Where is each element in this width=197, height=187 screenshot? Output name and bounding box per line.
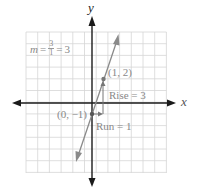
slope-value: 3 [64,43,70,55]
point-top-label: (1, 2) [108,66,132,78]
slope-annotation: m = 3 1 = 3 [30,40,70,57]
line-up-arrow-icon [113,34,120,46]
slope-fraction: 3 1 [48,40,54,57]
rise-label: Rise = 3 [109,89,146,101]
x-axis [12,100,176,107]
run-arrow-icon [98,112,103,117]
rise-arrow-icon [101,81,106,86]
coordinate-graph [0,0,197,187]
y-axis-down-arrow-icon [89,178,96,187]
y-axis-label: y [88,0,94,16]
slope-denominator: 1 [49,49,53,57]
x-axis-left-arrow-icon [12,100,21,107]
x-axis-label: x [181,94,187,110]
point-bottom-label: (0, −1) [57,108,87,120]
x-axis-right-arrow-icon [167,100,176,107]
run-label: Run = 1 [96,120,132,132]
slope-eq2: = [56,43,62,55]
y-axis-up-arrow-icon [89,16,96,26]
slope-eq1: = [40,43,46,55]
point-0-neg1 [90,112,94,116]
point-1-2 [101,77,105,81]
rise-arrow [101,81,106,114]
slope-m: m [30,43,38,55]
y-axis [89,16,96,187]
